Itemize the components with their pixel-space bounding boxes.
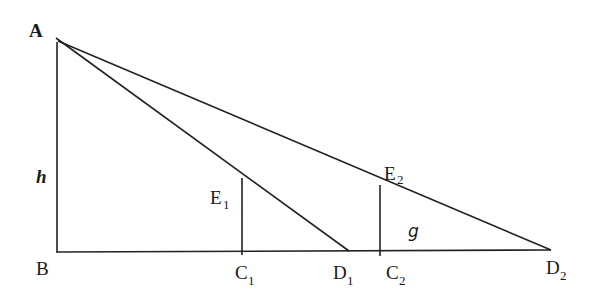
label-D1: D 1 <box>333 262 354 288</box>
svg-text:D: D <box>333 262 347 283</box>
geometry-diagram: A h B E 1 E 2 g C 1 D 1 C 2 D 2 <box>0 0 600 299</box>
label-h: h <box>36 166 47 187</box>
svg-text:C: C <box>235 262 248 283</box>
segment-BD2-baseline <box>57 250 551 252</box>
svg-text:1: 1 <box>248 273 255 288</box>
label-E2: E 2 <box>384 163 404 187</box>
svg-text:2: 2 <box>397 172 404 187</box>
segment-AD1 <box>56 38 349 251</box>
label-E1: E 1 <box>210 187 230 212</box>
label-D2: D 2 <box>546 257 567 283</box>
label-B: B <box>36 258 49 279</box>
svg-text:D: D <box>546 257 560 278</box>
svg-text:C: C <box>386 262 399 283</box>
svg-text:E: E <box>384 163 396 184</box>
svg-text:E: E <box>210 187 222 208</box>
label-C2: C 2 <box>386 262 406 288</box>
svg-text:2: 2 <box>560 268 567 283</box>
label-C1: C 1 <box>235 262 255 288</box>
svg-text:1: 1 <box>223 197 230 212</box>
svg-text:2: 2 <box>399 273 406 288</box>
label-g: g <box>408 221 419 241</box>
svg-text:1: 1 <box>347 273 354 288</box>
label-A: A <box>29 20 43 41</box>
